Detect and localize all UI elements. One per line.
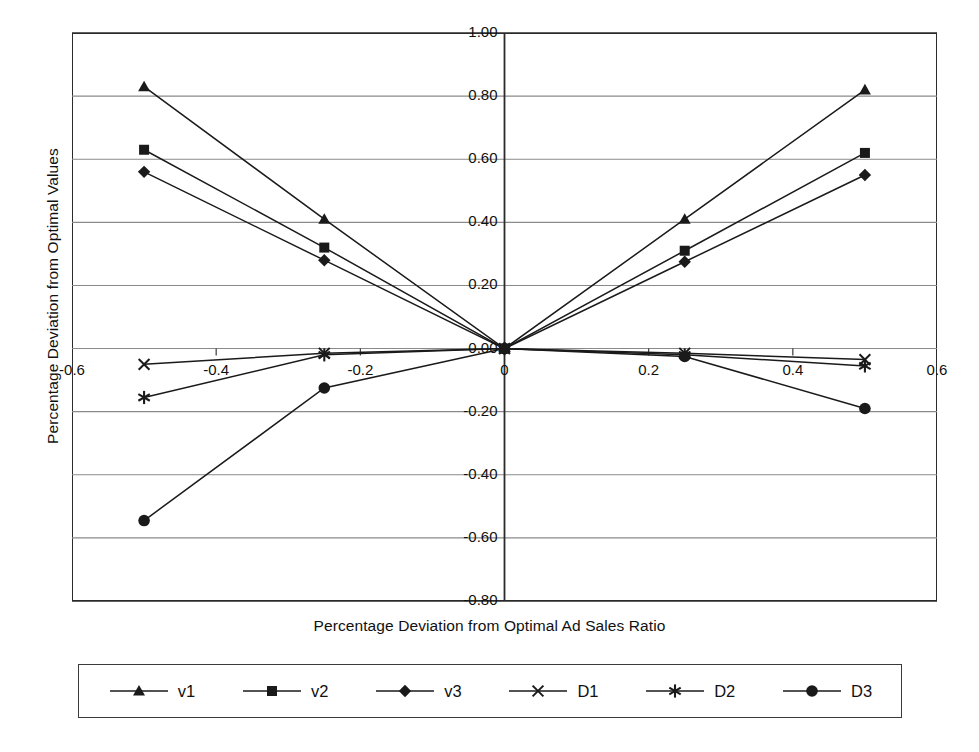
marker-asterisk bbox=[138, 391, 149, 404]
marker-circle bbox=[806, 685, 818, 697]
marker-diamond bbox=[679, 256, 691, 268]
legend-label: v3 bbox=[444, 682, 461, 701]
marker-square bbox=[267, 686, 277, 696]
y-tick-label: -0.40 bbox=[423, 465, 498, 482]
marker-diamond bbox=[318, 254, 330, 266]
x-tick-label: 0.6 bbox=[907, 361, 967, 378]
marker-circle bbox=[318, 382, 330, 394]
marker-circle bbox=[859, 403, 871, 415]
x-tick-label: -0.6 bbox=[42, 361, 102, 378]
legend-item-D1[interactable]: D1 bbox=[507, 681, 598, 701]
x-tick-label: 0 bbox=[475, 361, 535, 378]
legend-label: D3 bbox=[851, 682, 872, 701]
marker-square bbox=[139, 145, 149, 155]
marker-triangle bbox=[138, 81, 150, 92]
x-tick-label: -0.2 bbox=[330, 361, 390, 378]
marker-circle bbox=[679, 351, 691, 363]
y-tick-label: 0.00 bbox=[423, 339, 498, 356]
x-tick-label: 0.4 bbox=[763, 361, 823, 378]
y-tick-label: 0.80 bbox=[423, 86, 498, 103]
marker-triangle bbox=[679, 213, 691, 224]
chart-legend: v1v2v3D1D2D3 bbox=[78, 664, 902, 718]
x-axis-title: Percentage Deviation from Optimal Ad Sal… bbox=[0, 617, 979, 635]
legend-item-v1[interactable]: v1 bbox=[108, 681, 195, 701]
legend-label: v1 bbox=[178, 682, 195, 701]
y-tick-label: 0.20 bbox=[423, 275, 498, 292]
marker-circle bbox=[499, 343, 511, 355]
y-tick-label: 0.40 bbox=[423, 212, 498, 229]
legend-marker-asterisk-icon bbox=[644, 681, 706, 701]
marker-diamond bbox=[859, 169, 871, 181]
marker-diamond bbox=[399, 685, 411, 697]
y-tick-label: 0.60 bbox=[423, 149, 498, 166]
legend-marker-diamond-icon bbox=[374, 681, 436, 701]
legend-label: D1 bbox=[577, 682, 598, 701]
legend-marker-triangle-icon bbox=[108, 681, 170, 701]
marker-square bbox=[319, 243, 329, 253]
legend-item-v3[interactable]: v3 bbox=[374, 681, 461, 701]
marker-square bbox=[680, 246, 690, 256]
y-tick-label: -0.80 bbox=[423, 591, 498, 608]
legend-marker-circle-icon bbox=[781, 681, 843, 701]
marker-triangle bbox=[859, 84, 871, 95]
marker-diamond bbox=[138, 166, 150, 178]
y-tick-label: -0.60 bbox=[423, 528, 498, 545]
legend-marker-x-icon bbox=[507, 681, 569, 701]
y-tick-label: -0.20 bbox=[423, 402, 498, 419]
x-tick-label: -0.4 bbox=[186, 361, 246, 378]
marker-circle bbox=[138, 515, 150, 527]
legend-label: v2 bbox=[311, 682, 328, 701]
marker-triangle bbox=[318, 213, 330, 224]
legend-marker-square-icon bbox=[241, 681, 303, 701]
legend-label: D2 bbox=[714, 682, 735, 701]
x-tick-label: 0.2 bbox=[619, 361, 679, 378]
chart-page: Percentage Deviation from Optimal Values… bbox=[0, 0, 979, 752]
marker-square bbox=[860, 148, 870, 158]
legend-item-v2[interactable]: v2 bbox=[241, 681, 328, 701]
legend-item-D2[interactable]: D2 bbox=[644, 681, 735, 701]
legend-item-D3[interactable]: D3 bbox=[781, 681, 872, 701]
y-tick-label: 1.00 bbox=[423, 23, 498, 40]
